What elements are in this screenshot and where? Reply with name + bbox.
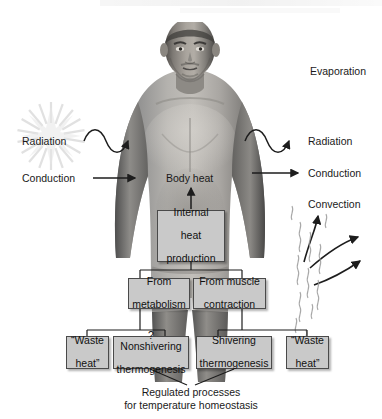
box-from-metabolism-line1: From: [130, 276, 188, 288]
box-shivering-thermogenesis[interactable]: Shivering thermogenesis: [196, 336, 272, 369]
box-waste-heat-left-line2: heat”: [69, 358, 106, 370]
box-internal-heat-line3: production: [164, 253, 217, 265]
box-waste-heat-left-line1: “Waste: [69, 335, 106, 347]
label-conduction-left: Conduction: [22, 172, 75, 184]
thermoregulation-figure: Evaporation Radiation Radiation Conducti…: [0, 0, 382, 419]
box-nonshivering-thermogenesis[interactable]: ? Nonshivering thermogenesis: [113, 336, 189, 369]
box-internal-heat-production[interactable]: Internal heat production: [157, 210, 225, 262]
box-waste-heat-left[interactable]: “Waste heat”: [66, 336, 109, 369]
evaporation-squiggles-icon: [291, 206, 327, 345]
label-body-heat: Body heat: [166, 172, 213, 184]
caption-regulated-processes: Regulated processes for temperature home…: [0, 386, 382, 411]
box-shivering-line1: Shivering: [198, 335, 271, 347]
box-from-muscle-contraction[interactable]: From muscle contraction: [193, 278, 266, 309]
label-radiation-left: Radiation: [22, 135, 66, 147]
box-waste-heat-right-line2: heat”: [289, 358, 326, 370]
box-from-metabolism[interactable]: From metabolism: [128, 278, 190, 309]
box-shivering-line2: thermogenesis: [198, 358, 271, 370]
box-nonshivering-line2: thermogenesis: [115, 364, 188, 376]
box-from-muscle-line2: contraction: [197, 299, 262, 311]
box-waste-heat-right[interactable]: “Waste heat”: [286, 336, 329, 369]
scan-artifact-band-secondary: [180, 8, 340, 13]
box-from-muscle-line1: From muscle: [197, 276, 262, 288]
box-internal-heat-line2: heat: [164, 230, 217, 242]
caption-line1: Regulated processes: [142, 386, 241, 398]
box-waste-heat-right-line1: “Waste: [289, 335, 326, 347]
male-torso-photo: [104, 22, 276, 382]
label-conduction-right: Conduction: [308, 167, 361, 179]
convection-arrows-icon: [304, 216, 360, 285]
box-internal-heat-line1: Internal: [164, 207, 217, 219]
label-convection-right: Convection: [308, 198, 361, 210]
box-nonshivering-line1: ? Nonshivering: [115, 330, 188, 353]
box-from-metabolism-line2: metabolism: [130, 299, 188, 311]
scan-artifact-band: [100, 0, 382, 6]
label-radiation-right: Radiation: [308, 135, 352, 147]
caption-line2: for temperature homeostasis: [124, 399, 258, 411]
label-evaporation: Evaporation: [310, 65, 366, 77]
